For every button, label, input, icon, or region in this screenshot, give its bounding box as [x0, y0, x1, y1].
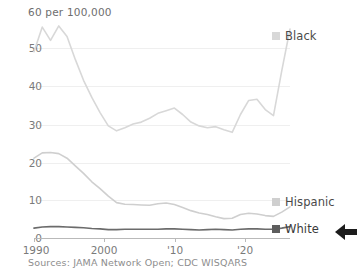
x-axis-tick-mark-1990 — [34, 238, 35, 242]
x-axis-tick-2000: 2000 — [91, 244, 118, 256]
series-line-black — [34, 26, 290, 132]
legend-label-white: White — [285, 222, 319, 236]
x-axis-tick-2010: '10 — [167, 244, 183, 256]
source-note: Sources: JAMA Network Open; CDC WISQARS — [28, 257, 247, 268]
x-axis-tick-1990: 1990 — [23, 244, 50, 256]
legend-item-black: Black — [272, 29, 317, 43]
left-arrow-icon — [332, 219, 360, 245]
x-axis-line — [34, 238, 290, 239]
legend-swatch-black-icon — [272, 32, 280, 40]
legend-label-hispanic: Hispanic — [285, 195, 335, 209]
legend-label-black: Black — [285, 29, 317, 43]
x-axis-tick-mark-2010 — [175, 238, 176, 242]
x-axis-tick-mark-2000 — [104, 238, 105, 242]
race-homicide-rate-line-chart: 60 per 100,000 50 40 30 20 10 0 1990 200… — [0, 0, 362, 274]
legend-item-hispanic: Hispanic — [272, 195, 335, 209]
series-line-hispanic — [34, 153, 290, 219]
x-axis-tick-2020: '20 — [237, 244, 253, 256]
legend-swatch-white-icon — [272, 225, 280, 233]
series-line-white — [34, 227, 290, 230]
legend-item-white: White — [272, 222, 319, 236]
legend-swatch-hispanic-icon — [272, 198, 280, 206]
x-axis-tick-mark-2020 — [245, 238, 246, 242]
